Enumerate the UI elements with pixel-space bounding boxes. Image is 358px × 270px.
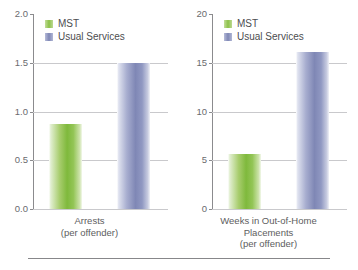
y-tick-label-right-0: 0: [202, 204, 207, 214]
gridline-left-4: 2.0: [33, 14, 168, 15]
tick-mark-right-0: [209, 209, 212, 210]
y-tick-label-right-3: 15: [196, 58, 207, 68]
plot-area-left: 0.0 0.5 1.0 1.5 2.0: [33, 14, 168, 209]
x-axis-caption-right: Weeks in Out-of-Home Placements (per off…: [179, 215, 358, 250]
bottom-divider-rule: [28, 258, 330, 259]
legend-item-usual-right: Usual Services: [224, 30, 304, 43]
legend-swatch-usual-icon: [45, 33, 53, 41]
plot-area-right: 0 5 10 15 20: [212, 14, 347, 209]
tick-mark-right-4: [209, 14, 212, 15]
y-tick-label-right-4: 20: [196, 9, 207, 19]
legend-item-usual-left: Usual Services: [45, 30, 125, 43]
legend-swatch-usual-icon: [224, 33, 232, 41]
legend-item-mst-right: MST: [224, 17, 304, 30]
y-tick-label-right-1: 5: [202, 156, 207, 166]
bar-mst-arrests: [49, 124, 82, 209]
y-tick-label-left-3: 1.5: [15, 58, 28, 68]
y-tick-label-left-1: 0.5: [15, 156, 28, 166]
gridline-left-0: 0.0: [33, 209, 168, 210]
legend-label-usual: Usual Services: [58, 32, 125, 42]
gridline-right-4: 20: [212, 14, 347, 15]
bar-chart-figure: 0.0 0.5 1.0 1.5 2.0: [0, 0, 358, 270]
chart-panel-arrests: 0.0 0.5 1.0 1.5 2.0: [0, 0, 179, 270]
gridline-right-0: 0: [212, 209, 347, 210]
legend-label-usual: Usual Services: [237, 32, 304, 42]
tick-mark-left-1: [30, 160, 33, 161]
x-caption-line-2: Placements: [179, 227, 358, 239]
tick-mark-left-3: [30, 63, 33, 64]
legend-label-mst: MST: [58, 19, 79, 29]
bar-usual-arrests: [117, 63, 150, 209]
y-tick-label-right-2: 10: [196, 107, 207, 117]
x-caption-line-1: Arrests: [0, 215, 179, 227]
legend-swatch-mst-icon: [224, 20, 232, 28]
legend-label-mst: MST: [237, 19, 258, 29]
tick-mark-right-1: [209, 160, 212, 161]
y-tick-label-left-2: 1.0: [15, 107, 28, 117]
x-caption-line-1: Weeks in Out-of-Home: [179, 215, 358, 227]
tick-mark-left-0: [30, 209, 33, 210]
bar-usual-placements: [296, 52, 329, 209]
tick-mark-right-3: [209, 63, 212, 64]
bar-mst-placements: [228, 154, 261, 209]
x-caption-line-2: (per offender): [0, 227, 179, 239]
y-tick-label-left-0: 0.0: [15, 204, 28, 214]
y-tick-label-left-4: 2.0: [15, 9, 28, 19]
chart-panel-placements: 0 5 10 15 20 MST: [179, 0, 358, 270]
x-caption-line-3: (per offender): [179, 238, 358, 250]
legend-swatch-mst-icon: [45, 20, 53, 28]
legend-right: MST Usual Services: [224, 17, 304, 43]
legend-item-mst-left: MST: [45, 17, 125, 30]
tick-mark-left-2: [30, 112, 33, 113]
tick-mark-right-2: [209, 112, 212, 113]
x-axis-caption-left: Arrests (per offender): [0, 215, 179, 238]
tick-mark-left-4: [30, 14, 33, 15]
legend-left: MST Usual Services: [45, 17, 125, 43]
